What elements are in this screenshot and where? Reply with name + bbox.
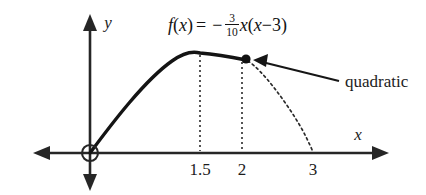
formula-argument: x — [179, 16, 187, 34]
x-tick-label-3: 3 — [309, 160, 318, 179]
formula-fraction-denominator: 10 — [225, 26, 239, 38]
quadratic-point-marker — [241, 54, 250, 63]
arrow-left-icon — [33, 146, 50, 160]
callout-leader-line — [262, 62, 339, 81]
x-axis-label: x — [353, 125, 362, 144]
arrow-down-icon — [83, 174, 97, 191]
formula-equals: = — [196, 16, 206, 34]
formula-leading-minus: − — [212, 16, 222, 34]
arrow-right-icon — [372, 146, 389, 160]
formula-binomial-minus: − — [262, 16, 272, 34]
quadratic-callout-label: quadratic — [345, 72, 409, 91]
formula-binomial-constant: 3 — [272, 16, 281, 34]
arrow-pointer-icon — [253, 54, 268, 67]
x-tick-label-1: 1.5 — [189, 160, 210, 179]
y-axis — [83, 14, 97, 191]
formula-fraction: 3 10 — [225, 12, 239, 39]
formula-close-paren: ) — [187, 16, 193, 34]
quadratic-curve-solid — [90, 52, 246, 153]
x-tick-label-2: 2 — [238, 160, 247, 179]
function-formula: f ( x ) = − 3 10 x ( x − 3 ) — [168, 12, 287, 39]
formula-binomial-variable: x — [254, 16, 262, 34]
arrow-up-icon — [83, 14, 97, 31]
y-axis-label: y — [102, 13, 112, 32]
formula-binomial-close: ) — [281, 16, 287, 34]
x-axis — [33, 146, 389, 160]
quadratic-graph-figure: 1.5 2 3 x y quadratic f ( x ) = − 3 10 x… — [0, 0, 426, 195]
formula-fraction-numerator: 3 — [228, 12, 236, 24]
formula-factor-variable: x — [240, 16, 248, 34]
quadratic-curve-dotted — [248, 61, 313, 152]
